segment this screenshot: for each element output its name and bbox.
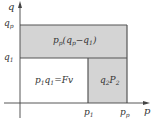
x-tick-pp: pp	[120, 108, 130, 118]
lower-left-label: p1q1=Fv	[35, 76, 73, 86]
y-tick-q1: q1	[4, 53, 14, 63]
x-tick-p1: p1	[84, 108, 94, 118]
x-axis-label: p	[144, 106, 150, 116]
lower-right-label: q2P2	[100, 76, 119, 86]
y-axis-arrow-icon	[18, 1, 22, 8]
diagram-canvas	[0, 0, 155, 128]
top-band-label: pp(qp−q1)	[53, 36, 96, 46]
y-axis-label: q	[8, 2, 14, 12]
y-tick-qp: qp	[4, 19, 14, 29]
